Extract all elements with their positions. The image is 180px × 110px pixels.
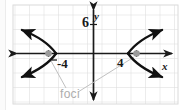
y-axis-tick-label-6: 6 xyxy=(82,16,89,30)
y-axis-label: y xyxy=(94,11,99,22)
focus-point-right xyxy=(133,50,140,57)
graph-canvas xyxy=(0,0,180,110)
x-axis-tick-label-neg-4: -4 xyxy=(57,57,68,70)
hyperbola-graph-figure: 6 y x -4 4 foci xyxy=(0,0,180,110)
x-axis-tick-label-4: 4 xyxy=(117,56,124,69)
focus-point-left xyxy=(45,50,52,57)
foci-annotation-label: foci xyxy=(60,88,80,100)
x-axis-label: x xyxy=(162,61,168,72)
